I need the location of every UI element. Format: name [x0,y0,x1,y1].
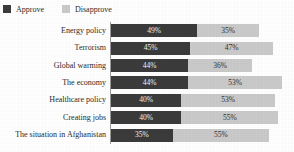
bar-segment-approve: 40% [111,111,181,124]
bar-row: The economy44%53% [0,74,294,91]
bar-rows: Energy policy49%35%Terrorism45%47%Global… [0,22,294,144]
bar-value-approve: 35% [135,131,149,139]
square-swatch-icon [3,5,11,13]
square-swatch-icon [62,5,70,13]
bar-track: 49%35% [111,24,259,37]
bar-value-disapprove: 55% [223,114,237,122]
category-label: Creating jobs [0,113,106,123]
bar-track: 40%53% [111,94,275,107]
bar-track: 35%55% [111,129,269,142]
bar-track: 44%36% [111,59,252,72]
bar-segment-approve: 35% [111,129,173,142]
bar-segment-approve: 44% [111,59,188,72]
bar-track: 44%53% [111,76,282,89]
category-label: Global warming [0,61,106,71]
bar-value-disapprove: 36% [213,62,227,70]
legend-item-approve: Approve [3,2,44,16]
category-label: Healthcare policy [0,95,106,105]
bar-value-approve: 40% [139,96,153,104]
bar-segment-approve: 40% [111,94,181,107]
bar-row: Terrorism45%47% [0,39,294,56]
bar-track: 45%47% [111,42,273,55]
bar-value-disapprove: 35% [221,27,235,35]
bar-segment-approve: 49% [111,24,197,37]
plot-area: Energy policy49%35%Terrorism45%47%Global… [0,20,294,146]
category-label: Terrorism [0,43,106,53]
bar-segment-disapprove: 35% [197,24,259,37]
stacked-bar-chart: Approve Disapprove Energy policy49%35%Te… [0,0,294,152]
bar-segment-disapprove: 47% [190,42,273,55]
bar-segment-disapprove: 53% [181,94,274,107]
bar-segment-approve: 45% [111,42,190,55]
bar-row: Healthcare policy40%53% [0,92,294,109]
bar-segment-disapprove: 36% [188,59,251,72]
bar-value-disapprove: 53% [228,79,242,87]
legend-label-approve: Approve [16,5,44,14]
bar-segment-disapprove: 55% [181,111,278,124]
category-label: The economy [0,78,106,88]
bar-segment-disapprove: 53% [188,76,281,89]
bar-row: Creating jobs40%55% [0,109,294,126]
bar-value-approve: 44% [143,62,157,70]
legend-label-disapprove: Disapprove [75,5,112,14]
bar-segment-disapprove: 55% [173,129,270,142]
legend-item-disapprove: Disapprove [62,2,112,16]
bar-value-disapprove: 53% [221,96,235,104]
bar-value-approve: 40% [139,114,153,122]
bar-segment-approve: 44% [111,76,188,89]
bar-row: Energy policy49%35% [0,22,294,39]
category-label: Energy policy [0,26,106,36]
bar-row: Global warming44%36% [0,57,294,74]
bar-value-disapprove: 55% [214,131,228,139]
bar-row: The situation in Afghanistan35%55% [0,127,294,144]
bar-value-disapprove: 47% [225,44,239,52]
bar-track: 40%55% [111,111,278,124]
bar-value-approve: 45% [144,44,158,52]
category-label: The situation in Afghanistan [0,130,106,140]
bar-value-approve: 49% [147,27,161,35]
bar-value-approve: 44% [143,79,157,87]
chart-legend: Approve Disapprove [3,2,112,16]
